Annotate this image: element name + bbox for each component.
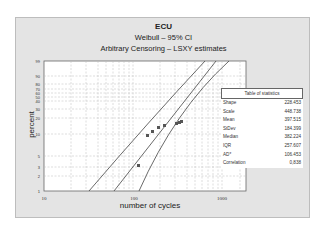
stats-value: 257.607 [284, 142, 301, 151]
svg-text:10: 10 [42, 196, 48, 201]
stats-table: Table of statistics Shape228.453 Scale44… [221, 88, 303, 168]
stats-value: 448.738 [284, 108, 301, 117]
stats-label: Scale [223, 108, 235, 117]
stats-value: 228.453 [284, 99, 301, 108]
svg-text:30: 30 [36, 107, 41, 112]
stats-row: Scale448.738 [221, 108, 303, 117]
svg-text:2: 2 [38, 174, 41, 179]
stats-row: Mean397.515 [221, 116, 303, 125]
svg-text:1000: 1000 [217, 196, 228, 201]
x-axis-label: number of cycles [100, 201, 200, 210]
stats-label: Correlation [223, 159, 245, 168]
stats-value: 382.224 [284, 133, 301, 142]
stats-label: Mean [223, 116, 235, 125]
stats-value: 0,838 [290, 159, 302, 168]
stats-row: StDev184.399 [221, 125, 303, 134]
y-tick-labels: 99 90 80 70 60 50 40 30 20 10 5 3 2 1 [36, 59, 41, 194]
stats-row: IQR257.607 [221, 142, 303, 151]
svg-text:1: 1 [38, 189, 41, 194]
svg-text:3: 3 [38, 165, 41, 170]
stats-row: Correlation0,838 [221, 159, 303, 168]
svg-text:99: 99 [36, 59, 41, 64]
stats-label: AD* [223, 151, 231, 160]
stats-label: IQR [223, 142, 231, 151]
stats-label: Median [223, 133, 238, 142]
svg-text:5: 5 [38, 154, 41, 159]
stats-value: 106.453 [284, 151, 301, 160]
stats-value: 184.399 [284, 125, 301, 134]
svg-text:20: 20 [36, 116, 41, 121]
stats-row: AD*106.453 [221, 151, 303, 160]
stats-row: Median382.224 [221, 133, 303, 142]
stats-label: StDev [223, 125, 236, 134]
stats-value: 397.515 [284, 116, 301, 125]
stats-table-header: Table of statistics [221, 88, 303, 99]
y-axis-label: percent [27, 100, 36, 150]
stats-label: Shape [223, 99, 236, 108]
svg-text:10: 10 [36, 132, 41, 137]
svg-text:90: 90 [36, 74, 41, 79]
stats-row: Shape228.453 [221, 99, 303, 108]
svg-text:40: 40 [36, 99, 41, 104]
